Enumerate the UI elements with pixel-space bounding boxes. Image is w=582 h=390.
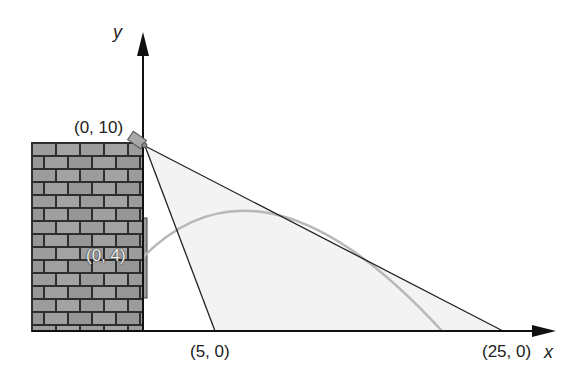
x-axis-arrow-icon [532, 325, 556, 337]
point-label-camera: (0, 10) [74, 118, 123, 138]
x-axis-label: x [544, 342, 553, 363]
diagram-canvas [0, 0, 582, 390]
point-label-wall: (0, 4) [86, 246, 126, 266]
y-axis-label: y [113, 22, 122, 43]
brick-wall [32, 143, 143, 331]
point-label-far-ground: (25, 0) [482, 342, 531, 362]
y-axis-arrow-icon [137, 32, 149, 56]
point-label-near-ground: (5, 0) [190, 342, 230, 362]
